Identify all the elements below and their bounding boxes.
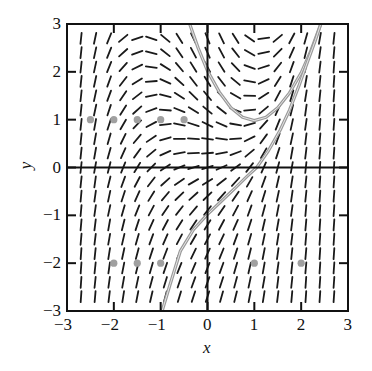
slope-segment xyxy=(319,76,320,87)
slope-segment xyxy=(150,277,153,288)
slope-segment xyxy=(94,234,95,245)
slope-segment xyxy=(146,37,156,40)
slope-segment xyxy=(290,62,294,72)
slope-segment xyxy=(291,277,292,288)
slope-segment xyxy=(136,291,138,302)
y-tick-label: 3 xyxy=(53,15,62,32)
slope-segment xyxy=(94,219,95,230)
slope-segment xyxy=(262,177,266,187)
slope-segment xyxy=(108,291,109,302)
slope-segment xyxy=(81,191,82,202)
slope-segment xyxy=(275,77,281,86)
slope-segment xyxy=(305,248,306,259)
slope-segment xyxy=(305,90,307,101)
slope-segment xyxy=(219,48,224,58)
slope-segment xyxy=(134,135,141,143)
slope-segment xyxy=(161,178,169,185)
slope-segment xyxy=(122,277,124,288)
slope-segment xyxy=(192,291,195,301)
slope-segment xyxy=(107,105,110,115)
slope-segment xyxy=(188,123,198,126)
slope-segment xyxy=(108,234,110,245)
slope-segment xyxy=(121,134,126,144)
slope-segment xyxy=(176,206,183,215)
slope-segment xyxy=(291,291,292,302)
slope-segment xyxy=(161,49,170,56)
slope-segment xyxy=(260,134,266,143)
slope-segment xyxy=(146,108,156,112)
y-tick-label: −3 xyxy=(43,302,61,319)
slope-segment xyxy=(191,249,196,259)
slope-segment xyxy=(95,262,96,273)
slope-segment xyxy=(233,220,237,230)
slope-segment xyxy=(334,262,335,273)
slope-segment xyxy=(263,263,265,274)
slope-segment xyxy=(191,48,196,58)
slope-segment xyxy=(291,262,292,273)
marked-point xyxy=(157,116,164,123)
slope-segment xyxy=(80,33,81,44)
slope-segment xyxy=(174,108,184,112)
marked-point xyxy=(87,116,94,123)
x-tick-label: 0 xyxy=(203,316,212,333)
slope-segment xyxy=(277,277,278,288)
slope-segment xyxy=(147,136,156,142)
slope-segment xyxy=(305,133,306,144)
slope-segment xyxy=(276,119,280,129)
slope-segment xyxy=(320,234,321,245)
slope-segment xyxy=(94,90,96,101)
slope-segment xyxy=(94,205,96,216)
slope-segment xyxy=(219,234,224,244)
slope-segment xyxy=(146,81,157,82)
slope-segment xyxy=(305,191,306,202)
slope-segment xyxy=(146,122,156,127)
slope-segment xyxy=(163,248,167,258)
slope-segment xyxy=(80,47,81,58)
slope-segment xyxy=(248,263,250,274)
slope-segment xyxy=(189,107,198,113)
slope-segment xyxy=(248,220,251,230)
slope-segment xyxy=(132,65,142,70)
slope-segment xyxy=(81,219,82,230)
slope-segment xyxy=(334,76,335,87)
marked-point xyxy=(157,260,164,267)
slope-segment xyxy=(122,291,124,302)
slope-segment xyxy=(305,262,306,273)
x-axis-label: x xyxy=(203,339,211,356)
slope-segment xyxy=(80,90,81,101)
slope-segment xyxy=(178,277,182,287)
slope-segment xyxy=(108,148,111,159)
slope-segment xyxy=(174,123,185,125)
slope-segment xyxy=(132,51,142,55)
slope-segment xyxy=(107,62,111,72)
slope-segment xyxy=(249,291,251,302)
y-tick-label: 1 xyxy=(53,111,62,128)
slope-segment xyxy=(177,263,181,273)
slope-segment xyxy=(277,263,279,274)
slope-segment xyxy=(334,90,335,101)
slope-segment xyxy=(174,152,185,154)
slope-segment xyxy=(94,47,96,58)
slope-segment xyxy=(122,234,124,245)
slope-segment xyxy=(320,248,321,259)
slope-segment xyxy=(291,248,292,259)
slope-segment xyxy=(233,34,239,43)
slope-segment xyxy=(94,76,96,87)
slope-segment xyxy=(162,206,168,215)
slope-segment xyxy=(80,62,81,73)
x-tick-label: −2 xyxy=(101,316,119,333)
slope-segment xyxy=(80,148,81,159)
slope-segment xyxy=(94,148,96,159)
slope-segment xyxy=(80,176,81,187)
slope-segment xyxy=(320,277,321,288)
marked-point xyxy=(134,260,141,267)
slope-segment xyxy=(135,205,139,215)
slope-segment xyxy=(263,291,265,302)
slope-segment xyxy=(247,177,253,187)
slope-segment xyxy=(148,192,154,201)
slope-segment xyxy=(334,105,335,116)
slope-segment xyxy=(305,277,306,288)
slope-segment xyxy=(81,291,82,302)
slope-segment xyxy=(291,148,293,159)
slope-segment xyxy=(334,62,335,73)
